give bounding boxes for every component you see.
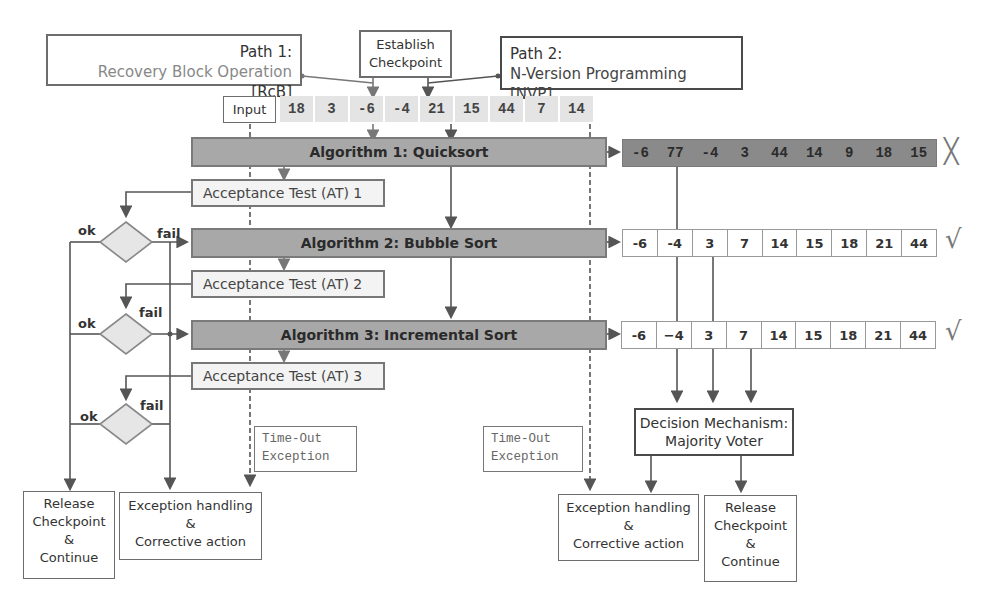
output-value: -6 <box>623 145 658 161</box>
rcb-exception-handling-box: Exception handling & Corrective action <box>119 492 262 560</box>
path2-title: Path 2: <box>510 44 733 64</box>
algorithm-1-quicksort: Algorithm 1: Quicksort <box>191 137 607 167</box>
decision-1-fail-label: fail <box>157 226 180 241</box>
input-value: 15 <box>455 96 488 122</box>
algorithm-3-incremental-sort: Algorithm 3: Incremental Sort <box>191 320 607 350</box>
output-value: 7 <box>728 230 763 256</box>
output-row-3-correct: -6 −4 3 7 14 15 18 21 44 <box>621 321 936 349</box>
output-value: -6 <box>622 322 657 348</box>
output-value: -6 <box>623 230 658 256</box>
output-value: 18 <box>832 230 867 256</box>
check-mark-icon: √ <box>945 316 962 346</box>
exception-line3: Corrective action <box>120 533 261 551</box>
output-value: 44 <box>901 322 935 348</box>
input-value: -4 <box>385 96 418 122</box>
acceptance-test-1: Acceptance Test (AT) 1 <box>191 179 385 207</box>
input-label: Input <box>233 102 267 117</box>
timeout-exception-nvp: Time-Out Exception <box>483 426 583 472</box>
input-values: 18 3 -6 -4 21 15 44 7 14 <box>280 96 600 122</box>
release-line1: Release <box>24 495 114 513</box>
timeout-line2: Exception <box>491 448 575 466</box>
cross-mark-icon: ╳ <box>944 137 958 165</box>
output-value: 21 <box>867 230 902 256</box>
acceptance-test-2: Acceptance Test (AT) 2 <box>191 270 385 298</box>
decision-mechanism-line2: Majority Voter <box>636 432 792 450</box>
output-value: 7 <box>727 322 762 348</box>
timeout-line1: Time-Out <box>262 430 349 448</box>
acceptance-test-3: Acceptance Test (AT) 3 <box>191 362 385 390</box>
output-value: 3 <box>692 322 727 348</box>
output-value: 3 <box>727 145 762 161</box>
exception-line3: Corrective action <box>559 535 698 553</box>
output-value: 15 <box>901 145 936 161</box>
exception-line2: & <box>120 515 261 533</box>
output-value: -4 <box>658 230 693 256</box>
input-value: 7 <box>525 96 558 122</box>
input-value: 18 <box>280 96 313 122</box>
output-value: 14 <box>762 322 797 348</box>
input-value: 14 <box>560 96 593 122</box>
timeout-line2: Exception <box>262 448 349 466</box>
release-line3: & <box>705 535 796 553</box>
decision-diamond-2 <box>100 314 152 354</box>
decision-mechanism-line1: Decision Mechanism: <box>636 414 792 432</box>
output-value: 18 <box>831 322 866 348</box>
rcb-release-checkpoint-box: Release Checkpoint & Continue <box>23 491 115 579</box>
timeout-exception-rcb: Time-Out Exception <box>254 426 357 472</box>
check-mark-icon: √ <box>945 224 962 254</box>
path1-box: Path 1: Recovery Block Operation [RcB] <box>46 34 302 86</box>
input-value: -6 <box>350 96 383 122</box>
decision-1-ok-label: ok <box>78 223 96 238</box>
output-value: 15 <box>796 322 831 348</box>
nvp-exception-handling-box: Exception handling & Corrective action <box>558 494 699 561</box>
output-value: 77 <box>658 145 693 161</box>
checkpoint-line1: Establish <box>361 36 450 54</box>
output-value: −4 <box>657 322 692 348</box>
input-label-box: Input <box>223 96 276 123</box>
release-line2: Checkpoint <box>24 513 114 531</box>
output-value: -4 <box>693 145 728 161</box>
output-value: 18 <box>866 145 901 161</box>
establish-checkpoint-box: Establish Checkpoint <box>359 30 452 78</box>
decision-3-ok-label: ok <box>80 409 98 424</box>
output-value: 15 <box>797 230 832 256</box>
exception-line2: & <box>559 517 698 535</box>
output-value: 44 <box>762 145 797 161</box>
input-value: 21 <box>420 96 453 122</box>
exception-line1: Exception handling <box>120 497 261 515</box>
decision-mechanism-box: Decision Mechanism: Majority Voter <box>634 408 794 456</box>
release-line2: Checkpoint <box>705 517 796 535</box>
output-value: 21 <box>866 322 901 348</box>
output-value: 9 <box>832 145 867 161</box>
decision-2-fail-label: fail <box>139 305 162 320</box>
release-line3: & <box>24 531 114 549</box>
decision-3-fail-label: fail <box>140 398 163 413</box>
exception-line1: Exception handling <box>559 499 698 517</box>
timeout-line1: Time-Out <box>491 430 575 448</box>
input-value: 3 <box>315 96 348 122</box>
release-line4: Continue <box>705 553 796 571</box>
release-line1: Release <box>705 499 796 517</box>
output-row-2-correct: -6 -4 3 7 14 15 18 21 44 <box>622 229 937 257</box>
checkpoint-line2: Checkpoint <box>361 54 450 72</box>
algorithm-2-bubble-sort: Algorithm 2: Bubble Sort <box>191 228 607 258</box>
output-row-1-incorrect: -6 77 -4 3 44 14 9 18 15 <box>622 139 937 167</box>
release-line4: Continue <box>24 549 114 567</box>
path1-title: Path 1: <box>56 42 292 62</box>
path2-box: Path 2: N-Version Programming [NVP] <box>500 36 743 90</box>
output-value: 44 <box>902 230 936 256</box>
decision-2-ok-label: ok <box>78 316 96 331</box>
nvp-release-checkpoint-box: Release Checkpoint & Continue <box>704 495 797 582</box>
input-value: 44 <box>490 96 523 122</box>
path1-subtitle: Recovery Block Operation <box>98 63 292 81</box>
output-value: 3 <box>693 230 728 256</box>
output-value: 14 <box>797 145 832 161</box>
output-value: 14 <box>763 230 798 256</box>
decision-diamond-1 <box>100 222 152 262</box>
